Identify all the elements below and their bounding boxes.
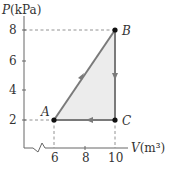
point-b — [112, 27, 117, 32]
pv-diagram: P(kPa) 8 6 4 2 6 8 10 V(m³) A B C — [0, 0, 173, 171]
y-tick-8: 8 — [9, 24, 17, 36]
point-b-label: B — [122, 25, 131, 37]
point-c-label: C — [122, 115, 131, 127]
x-axis-label: V(m³) — [131, 142, 165, 154]
point-c — [112, 117, 117, 122]
point-a — [51, 117, 56, 122]
x-axis-unit: (m³) — [140, 141, 166, 155]
y-axis-var: P — [2, 3, 10, 17]
y-tick-2: 2 — [9, 114, 17, 126]
x-tick-10: 10 — [108, 152, 123, 164]
x-tick-6: 6 — [51, 152, 59, 164]
y-axis-unit: (kPa) — [10, 3, 41, 17]
y-tick-4: 4 — [9, 84, 17, 96]
y-tick-6: 6 — [9, 55, 17, 67]
x-axis-var: V — [131, 141, 140, 155]
point-a-label: A — [41, 106, 50, 118]
x-tick-8: 8 — [82, 152, 90, 164]
y-axis-label: P(kPa) — [2, 4, 41, 16]
